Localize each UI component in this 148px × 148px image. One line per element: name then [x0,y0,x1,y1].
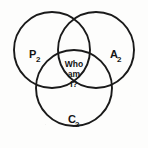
center-text-line-2: am [68,69,81,79]
set-label-left-subscript: 2 [36,55,41,64]
venn-diagram-canvas: P 2 A 2 C 2 Who am I? [0,0,148,148]
set-label-right-subscript: 2 [117,55,122,64]
center-text-line-1: Who [65,59,83,69]
set-label-bottom-subscript: 2 [75,120,80,129]
center-text-line-3: I? [70,79,78,89]
venn-diagram-figure: P 2 A 2 C 2 Who am I? [0,0,148,148]
